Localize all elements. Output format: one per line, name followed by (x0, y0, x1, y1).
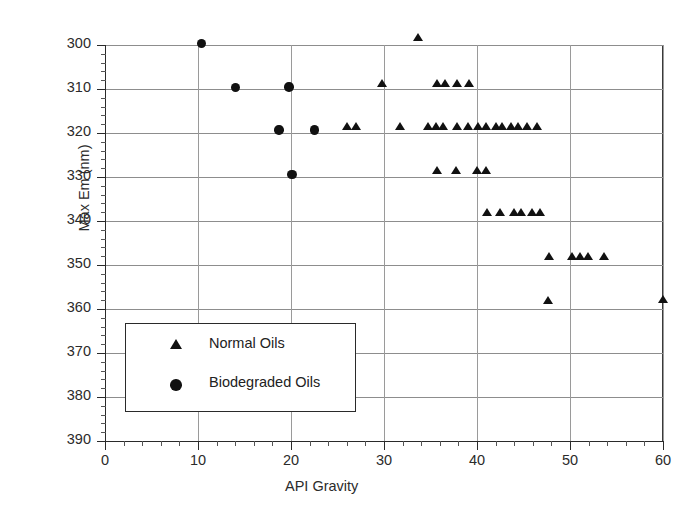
y-axis-minor-tick (101, 63, 106, 64)
y-axis-minor-tick (101, 327, 106, 328)
y-axis-minor-tick (101, 371, 106, 372)
x-axis-minor-tick (272, 441, 273, 446)
x-axis-tick-label: 20 (271, 452, 311, 468)
data-point-triangle (440, 79, 450, 87)
x-axis-minor-tick (310, 441, 311, 446)
data-point-triangle (583, 252, 593, 260)
y-axis-tick-label: 300 (45, 35, 91, 51)
y-axis-minor-tick (101, 300, 106, 301)
y-axis-minor-tick (101, 256, 106, 257)
x-axis-tick-label: 60 (643, 452, 683, 468)
y-axis-minor-tick (101, 168, 106, 169)
data-point-triangle (543, 296, 553, 304)
vertical-gridline (477, 45, 478, 441)
x-axis-minor-tick (124, 441, 125, 446)
x-axis-minor-tick (217, 441, 218, 446)
y-axis-minor-tick (101, 142, 106, 143)
data-point-triangle (516, 208, 526, 216)
data-point-circle (287, 170, 296, 179)
y-axis-minor-tick (101, 274, 106, 275)
x-axis-minor-tick (440, 441, 441, 446)
x-axis-tick (198, 441, 199, 450)
x-axis-minor-tick (644, 441, 645, 446)
y-axis-minor-tick (101, 151, 106, 152)
x-axis-minor-tick (514, 441, 515, 446)
y-axis-tick-label: 390 (45, 431, 91, 447)
x-axis-minor-tick (328, 441, 329, 446)
data-point-triangle (451, 166, 461, 174)
x-axis-minor-tick (496, 441, 497, 446)
y-axis-minor-tick (101, 195, 106, 196)
y-axis-minor-tick (101, 335, 106, 336)
x-axis-title: API Gravity (285, 478, 485, 494)
x-axis-tick (477, 441, 478, 450)
y-axis-tick (97, 177, 106, 178)
x-axis-minor-tick (458, 441, 459, 446)
y-axis-tick (97, 353, 106, 354)
data-point-triangle (482, 208, 492, 216)
x-axis-minor-tick (254, 441, 255, 446)
data-point-circle (310, 125, 319, 134)
x-axis-minor-tick (161, 441, 162, 446)
data-point-triangle (438, 122, 448, 130)
x-axis-tick-label: 50 (550, 452, 590, 468)
y-axis-tick (97, 265, 106, 266)
x-axis-minor-tick (533, 441, 534, 446)
y-axis-minor-tick (101, 406, 106, 407)
y-axis-minor-tick (101, 80, 106, 81)
legend-label: Normal Oils (209, 335, 285, 351)
y-axis-minor-tick (101, 432, 106, 433)
y-axis-tick (97, 133, 106, 134)
data-point-triangle (481, 166, 491, 174)
y-axis-tick (97, 309, 106, 310)
x-axis-tick (570, 441, 571, 450)
y-axis-minor-tick (101, 124, 106, 125)
x-axis-minor-tick (551, 441, 552, 446)
x-axis-minor-tick (421, 441, 422, 446)
legend-label: Biodegraded Oils (209, 374, 320, 390)
triangle-marker-icon (170, 339, 182, 349)
data-point-triangle (481, 122, 491, 130)
x-axis-minor-tick (403, 441, 404, 446)
scatter-chart-figure: 390 380 370 360 350 340 330 320 310 300 … (0, 0, 700, 515)
y-axis-minor-tick (101, 379, 106, 380)
data-point-triangle (658, 295, 668, 303)
vertical-gridline (384, 45, 385, 441)
data-point-circle (284, 82, 293, 91)
x-axis-tick (105, 441, 106, 450)
y-axis-tick-label: 360 (45, 299, 91, 315)
data-point-triangle (463, 122, 473, 130)
y-axis-minor-tick (101, 71, 106, 72)
data-point-triangle (432, 166, 442, 174)
y-axis-minor-tick (101, 115, 106, 116)
x-axis-tick (384, 441, 385, 450)
y-axis-minor-tick (101, 107, 106, 108)
x-axis-tick-label: 40 (457, 452, 497, 468)
vertical-gridline (663, 45, 664, 441)
data-point-triangle (532, 122, 542, 130)
y-axis-tick (97, 397, 106, 398)
x-axis-tick-label: 10 (178, 452, 218, 468)
data-point-triangle (495, 208, 505, 216)
y-axis-minor-tick (101, 247, 106, 248)
legend-entry-biodegraded-oils: Biodegraded Oils (126, 371, 355, 401)
vertical-gridline (570, 45, 571, 441)
x-axis-minor-tick (142, 441, 143, 446)
x-axis-minor-tick (589, 441, 590, 446)
y-axis-minor-tick (101, 318, 106, 319)
y-axis-minor-tick (101, 423, 106, 424)
y-axis-minor-tick (101, 344, 106, 345)
x-axis-minor-tick (365, 441, 366, 446)
y-axis-tick (97, 221, 106, 222)
y-axis-minor-tick (101, 230, 106, 231)
x-axis-tick-label: 30 (364, 452, 404, 468)
y-axis-tick (97, 89, 106, 90)
data-point-triangle (522, 122, 532, 130)
data-point-triangle (464, 79, 474, 87)
data-point-triangle (452, 122, 462, 130)
data-point-triangle (599, 252, 609, 260)
x-axis-tick-label: 0 (85, 452, 125, 468)
data-point-triangle (395, 122, 405, 130)
x-axis-minor-tick (626, 441, 627, 446)
y-axis-minor-tick (101, 98, 106, 99)
